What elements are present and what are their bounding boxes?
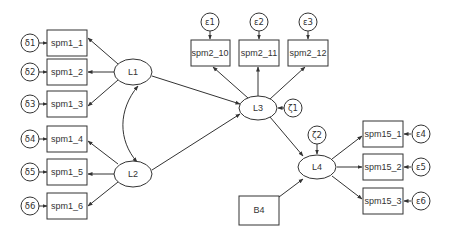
latent-L3: L3 bbox=[239, 96, 277, 120]
svg-text:ε2: ε2 bbox=[254, 17, 264, 27]
sem-diagram: δ1 δ2 δ3 δ4 δ5 δ6 spm1_1 spm1_2 spm1_3 s… bbox=[0, 0, 450, 235]
observed-spm15_3: spm15_3 bbox=[363, 188, 403, 214]
path-L1-L3 bbox=[152, 76, 240, 104]
observed-spm2_10: spm2_10 bbox=[191, 40, 230, 66]
observed-spm1_5: spm1_5 bbox=[47, 159, 87, 185]
svg-text:δ3: δ3 bbox=[25, 99, 36, 109]
svg-text:ε4: ε4 bbox=[416, 129, 426, 139]
zeta-disturbances: ζ1 ζ2 bbox=[284, 99, 326, 144]
svg-text:ε1: ε1 bbox=[205, 17, 215, 27]
observed-spm15_2: spm15_2 bbox=[363, 154, 403, 180]
svg-text:spm15_3: spm15_3 bbox=[364, 196, 401, 206]
spm1-boxes: spm1_1 spm1_2 spm1_3 spm1_4 spm1_5 spm1_… bbox=[47, 30, 87, 219]
error-z1: ζ1 bbox=[284, 99, 302, 117]
path-L4-spm15_1 bbox=[332, 136, 362, 159]
observed-spm1_3: spm1_3 bbox=[47, 91, 87, 117]
svg-text:δ2: δ2 bbox=[25, 67, 36, 77]
path-L3-spm2_10 bbox=[213, 67, 248, 98]
path-B4-L4 bbox=[279, 179, 303, 197]
svg-text:B4: B4 bbox=[253, 205, 264, 215]
path-L4-spm15_3 bbox=[332, 176, 362, 199]
path-L1-spm1_1 bbox=[88, 38, 118, 64]
error-d5: δ5 bbox=[21, 163, 39, 181]
svg-text:L3: L3 bbox=[253, 103, 263, 113]
error-e6: ε6 bbox=[412, 192, 430, 210]
svg-text:spm2_10: spm2_10 bbox=[191, 48, 228, 58]
svg-text:spm15_2: spm15_2 bbox=[364, 162, 401, 172]
svg-text:δ6: δ6 bbox=[25, 201, 36, 211]
svg-text:spm2_12: spm2_12 bbox=[289, 48, 326, 58]
latent-L2: L2 bbox=[114, 161, 152, 187]
svg-text:ε3: ε3 bbox=[303, 17, 313, 27]
path-L2-spm1_4 bbox=[88, 141, 118, 164]
error-d6: δ6 bbox=[21, 197, 39, 215]
error-e1: ε1 bbox=[201, 13, 219, 31]
svg-text:L2: L2 bbox=[128, 169, 138, 179]
svg-text:δ5: δ5 bbox=[25, 167, 36, 177]
svg-text:ε5: ε5 bbox=[416, 162, 426, 172]
path-L2-L3 bbox=[152, 114, 240, 170]
spm15-boxes: spm15_1 spm15_2 spm15_3 bbox=[363, 121, 403, 214]
latent-L1: L1 bbox=[114, 59, 152, 85]
svg-text:ζ1: ζ1 bbox=[288, 103, 298, 113]
error-e3: ε3 bbox=[299, 13, 317, 31]
svg-text:δ4: δ4 bbox=[25, 134, 36, 144]
observed-spm1_1: spm1_1 bbox=[47, 30, 87, 56]
observed-spm1_4: spm1_4 bbox=[47, 126, 87, 152]
path-L1-spm1_3 bbox=[88, 80, 118, 106]
error-e2: ε2 bbox=[250, 13, 268, 31]
svg-text:ζ2: ζ2 bbox=[312, 130, 322, 140]
svg-text:spm1_1: spm1_1 bbox=[51, 38, 83, 48]
error-e5: ε5 bbox=[412, 158, 430, 176]
svg-text:spm2_11: spm2_11 bbox=[241, 48, 277, 58]
path-L3-L4 bbox=[270, 117, 303, 156]
covariance-L1-L2 bbox=[123, 86, 138, 162]
observed-spm1_6: spm1_6 bbox=[47, 193, 87, 219]
observed-spm2_12: spm2_12 bbox=[288, 40, 328, 66]
path-L2-spm1_6 bbox=[88, 182, 118, 206]
epsilon-right-errors: ε4 ε5 ε6 bbox=[412, 125, 430, 210]
error-d2: δ2 bbox=[21, 63, 39, 81]
svg-text:ε6: ε6 bbox=[416, 196, 426, 206]
svg-text:spm15_1: spm15_1 bbox=[364, 129, 401, 139]
svg-text:spm1_2: spm1_2 bbox=[51, 67, 83, 77]
error-e4: ε4 bbox=[412, 125, 430, 143]
error-z2: ζ2 bbox=[308, 126, 326, 144]
error-d3: δ3 bbox=[21, 95, 39, 113]
spm2-boxes: spm2_10 spm2_11 spm2_12 bbox=[191, 40, 328, 66]
svg-text:L1: L1 bbox=[128, 67, 138, 77]
svg-text:L4: L4 bbox=[312, 162, 322, 172]
delta-errors: δ1 δ2 δ3 δ4 δ5 δ6 bbox=[21, 34, 39, 215]
latent-L4: L4 bbox=[298, 155, 336, 179]
observed-spm1_2: spm1_2 bbox=[47, 59, 87, 85]
observed-spm15_1: spm15_1 bbox=[363, 121, 403, 147]
svg-text:spm1_5: spm1_5 bbox=[51, 167, 83, 177]
path-L3-spm2_12 bbox=[270, 67, 305, 99]
epsilon-top-errors: ε1 ε2 ε3 bbox=[201, 13, 317, 31]
svg-text:spm1_3: spm1_3 bbox=[51, 99, 83, 109]
svg-text:δ1: δ1 bbox=[25, 38, 36, 48]
error-d1: δ1 bbox=[21, 34, 39, 52]
svg-text:spm1_6: spm1_6 bbox=[51, 201, 83, 211]
svg-text:spm1_4: spm1_4 bbox=[51, 134, 83, 144]
observed-spm2_11: spm2_11 bbox=[239, 40, 279, 66]
observed-B4: B4 bbox=[239, 196, 279, 225]
error-d4: δ4 bbox=[21, 130, 39, 148]
